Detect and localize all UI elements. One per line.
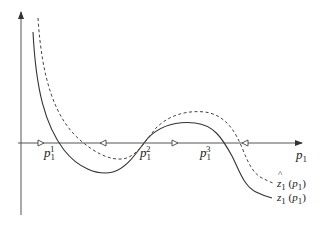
flow-arrow-right-icon: [172, 140, 178, 146]
flow-arrow-left-icon: [242, 140, 248, 146]
z1-curve-label: z1 (p1): [277, 192, 306, 203]
equilibrium-label-1: p11: [44, 146, 55, 159]
z1-hat-curve: [38, 18, 273, 183]
x-axis-label: p1: [296, 148, 307, 161]
equilibrium-label-3: p13: [200, 146, 211, 159]
z1-hat-curve-label: z1 (p1): [277, 178, 306, 189]
z1-curve: [33, 32, 272, 198]
flow-arrow-left-icon: [100, 140, 106, 146]
equilibrium-label-2: p12: [140, 146, 151, 159]
